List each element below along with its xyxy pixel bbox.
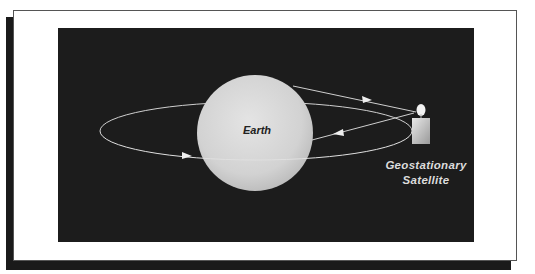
satellite-label: Geostationary Satellite [376,158,476,188]
orbit-diagram [0,0,535,274]
downlink-line [312,113,414,140]
earth-label: Earth [232,124,282,136]
downlink-arrow-icon [333,129,344,136]
orbit-arrow-icon [182,152,192,159]
satellite-label-line2: Satellite [376,173,476,188]
satellite-label-line1: Geostationary [376,158,476,173]
satellite-icon [412,104,430,144]
